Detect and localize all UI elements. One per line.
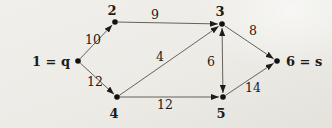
edge-weight-label-4-5: 12 <box>157 97 173 112</box>
graph-node-dot-5 <box>220 94 226 100</box>
graph-node-dot-4 <box>114 94 120 100</box>
edge-weight-label-2-3: 9 <box>151 7 159 22</box>
node-label-4: 4 <box>109 106 118 121</box>
graph-figure: 1012941268141 = q23456 = s <box>0 0 332 128</box>
graph-canvas: 1012941268141 = q23456 = s <box>0 0 332 128</box>
graph-node-dot-1 <box>75 58 81 64</box>
edge-weight-label-3-6: 8 <box>249 23 257 38</box>
graph-node-dot-3 <box>219 21 225 27</box>
node-label-3: 3 <box>215 4 224 19</box>
graph-node-dot-6 <box>274 58 280 64</box>
graph-edge-3-5 <box>222 28 223 93</box>
node-label-2: 2 <box>107 3 116 18</box>
node-label-6: 6 = s <box>286 54 322 69</box>
node-label-1: 1 = q <box>32 54 70 69</box>
graph-edge-2-3 <box>118 22 218 24</box>
graph-edge-4-3 <box>119 26 218 95</box>
edge-weight-label-4-3: 4 <box>156 49 164 64</box>
edge-weight-label-1-2: 10 <box>85 32 101 47</box>
node-label-5: 5 <box>216 106 225 121</box>
edge-weight-label-3-5: 6 <box>207 54 215 69</box>
edge-weight-label-1-4: 12 <box>87 74 103 89</box>
edge-weight-label-5-6: 14 <box>245 80 261 95</box>
graph-node-dot-2 <box>112 19 118 25</box>
